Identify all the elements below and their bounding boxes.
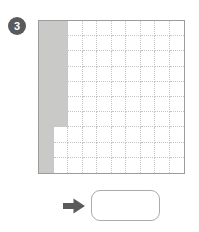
grid-cell xyxy=(141,21,156,36)
grid-cell xyxy=(141,112,156,127)
grid-cell xyxy=(170,143,185,158)
grid-cell xyxy=(170,21,185,36)
grid-cell xyxy=(141,51,156,66)
grid-cell xyxy=(141,97,156,112)
grid-cell xyxy=(97,97,112,112)
grid-cell xyxy=(54,36,69,51)
grid-cell xyxy=(68,158,83,173)
grid-cell xyxy=(39,36,54,51)
grid-cell xyxy=(97,21,112,36)
item-number: 3 xyxy=(14,21,20,32)
grid-cell xyxy=(155,67,170,82)
grid-cell xyxy=(112,127,127,142)
grid-cell xyxy=(112,36,127,51)
grid-cell xyxy=(39,51,54,66)
grid-cell xyxy=(97,36,112,51)
grid-cell xyxy=(170,82,185,97)
grid-cell xyxy=(68,51,83,66)
grid-cell xyxy=(83,51,98,66)
grid-cell xyxy=(126,36,141,51)
right-arrow-icon xyxy=(63,198,85,214)
grid-cell xyxy=(141,67,156,82)
grid-cell xyxy=(126,51,141,66)
grid-cell xyxy=(68,143,83,158)
grid-cell xyxy=(97,127,112,142)
grid-cell xyxy=(155,97,170,112)
grid-cell xyxy=(97,143,112,158)
grid-cell xyxy=(39,97,54,112)
worksheet-item: 3 xyxy=(0,0,199,232)
grid-cell xyxy=(141,143,156,158)
grid-cell xyxy=(112,112,127,127)
grid-cell xyxy=(141,36,156,51)
grid-cell xyxy=(54,112,69,127)
grid-cell xyxy=(170,112,185,127)
grid-cell xyxy=(39,82,54,97)
grid-cell xyxy=(126,21,141,36)
grid-cell xyxy=(83,143,98,158)
grid-cell xyxy=(112,21,127,36)
grid-cell xyxy=(83,112,98,127)
grid-cell xyxy=(54,82,69,97)
grid-cell xyxy=(126,112,141,127)
grid-cell xyxy=(141,82,156,97)
grid-cell xyxy=(68,36,83,51)
grid-cell xyxy=(83,127,98,142)
grid-cell xyxy=(155,82,170,97)
grid-cell xyxy=(126,97,141,112)
grid-cell xyxy=(112,67,127,82)
grid-cell xyxy=(126,143,141,158)
hundred-grid xyxy=(38,20,185,174)
grid-cell xyxy=(112,158,127,173)
item-number-badge: 3 xyxy=(8,17,26,35)
grid-cell xyxy=(170,67,185,82)
grid-cell xyxy=(126,67,141,82)
grid-cell xyxy=(83,21,98,36)
grid-cell xyxy=(39,158,54,173)
grid-cell xyxy=(112,143,127,158)
grid-cell xyxy=(155,158,170,173)
grid-cell xyxy=(170,51,185,66)
grid-cell xyxy=(54,127,69,142)
grid-cell xyxy=(39,67,54,82)
grid-cell xyxy=(39,127,54,142)
grid-cell xyxy=(112,51,127,66)
grid-cell xyxy=(141,127,156,142)
grid-cell xyxy=(97,112,112,127)
grid-cell xyxy=(83,67,98,82)
grid-cell xyxy=(97,82,112,97)
grid-cell xyxy=(68,112,83,127)
grid-cell xyxy=(155,51,170,66)
grid-cell xyxy=(68,82,83,97)
grid-cell xyxy=(170,127,185,142)
grid-cell xyxy=(155,127,170,142)
grid-cell xyxy=(155,143,170,158)
grid-cell xyxy=(68,97,83,112)
grid-cell xyxy=(155,21,170,36)
grid-cell xyxy=(112,82,127,97)
grid-cell xyxy=(97,67,112,82)
grid-cell xyxy=(170,97,185,112)
grid-cell xyxy=(83,82,98,97)
grid-cell xyxy=(112,97,127,112)
grid-cell xyxy=(54,158,69,173)
grid-cell xyxy=(68,127,83,142)
grid-cell xyxy=(39,143,54,158)
grid-cell xyxy=(54,21,69,36)
answer-box[interactable] xyxy=(91,190,160,221)
grid-cell xyxy=(54,67,69,82)
grid-cell xyxy=(68,21,83,36)
grid-cell xyxy=(155,36,170,51)
grid-cell xyxy=(170,158,185,173)
grid-cell xyxy=(155,112,170,127)
grid-cell xyxy=(141,158,156,173)
grid-cell xyxy=(39,21,54,36)
grid-cell xyxy=(83,97,98,112)
grid-cell xyxy=(126,158,141,173)
grid-cell xyxy=(83,158,98,173)
grid-cell xyxy=(126,127,141,142)
grid-cell xyxy=(39,112,54,127)
grid-cell xyxy=(97,158,112,173)
grid-cell xyxy=(68,67,83,82)
grid-cell xyxy=(83,36,98,51)
